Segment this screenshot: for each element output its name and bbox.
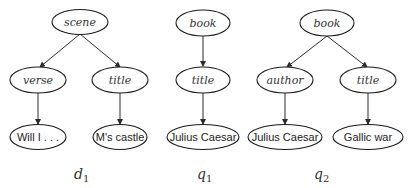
node-castle: M's castle bbox=[93, 125, 147, 150]
node-title: title bbox=[176, 67, 230, 93]
node-label: scene bbox=[64, 16, 96, 29]
node-author: author bbox=[257, 67, 313, 93]
node-scene: scene bbox=[52, 10, 108, 35]
node-label: title bbox=[109, 74, 132, 87]
node-label: Gallic war bbox=[344, 131, 393, 143]
node-label: M's castle bbox=[96, 131, 145, 143]
edge-scene-title bbox=[80, 34, 120, 67]
edge-book-title bbox=[327, 36, 367, 67]
xml-tree-diagram: scene verse title Will I . . . M's castl… bbox=[0, 0, 410, 188]
node-label: Julius Caesar bbox=[252, 131, 319, 143]
node-title: title bbox=[340, 67, 396, 93]
node-title: title bbox=[92, 67, 148, 93]
caption-d1: d1 bbox=[74, 166, 89, 184]
node-label: title bbox=[192, 74, 215, 87]
edge-scene-verse bbox=[40, 34, 80, 67]
node-label: author bbox=[266, 74, 304, 87]
node-caesar: Julius Caesar bbox=[248, 125, 322, 150]
node-book: book bbox=[176, 10, 230, 36]
node-label: book bbox=[190, 17, 217, 30]
caption-q2: q2 bbox=[314, 166, 329, 184]
node-label: title bbox=[357, 74, 380, 87]
node-book: book bbox=[300, 10, 354, 36]
tree-q1: book title Julius Caesar q1 bbox=[167, 10, 239, 184]
node-label: verse bbox=[23, 74, 54, 87]
node-caesar: Julius Caesar bbox=[167, 125, 239, 150]
node-verse: verse bbox=[10, 67, 66, 93]
tree-d1: scene verse title Will I . . . M's castl… bbox=[10, 10, 148, 185]
edge-book-author bbox=[287, 36, 327, 67]
caption-q1: q1 bbox=[197, 166, 212, 184]
node-label: Will I . . . bbox=[17, 131, 59, 143]
node-gallic: Gallic war bbox=[333, 125, 403, 150]
node-label: book bbox=[314, 17, 341, 30]
node-will: Will I . . . bbox=[10, 125, 66, 150]
node-label: Julius Caesar bbox=[170, 131, 237, 143]
tree-q2: book author title Julius Caesar Gallic w… bbox=[248, 10, 403, 184]
